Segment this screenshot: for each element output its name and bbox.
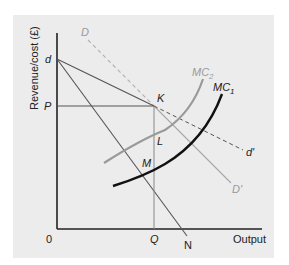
point-K-label: K — [157, 92, 165, 104]
curve-D-prime-label: D' — [232, 183, 243, 195]
kinked-demand-diagram: Revenue/cost (£) Output 0 P d Q K L M D … — [0, 0, 289, 265]
demand-D-prime-line — [154, 106, 231, 183]
price-label: P — [44, 100, 52, 112]
point-M-label: M — [142, 157, 152, 169]
marginal-revenue-line — [57, 59, 187, 236]
mc2-label: MC2 — [192, 66, 214, 81]
kink-price-label: d — [45, 53, 52, 65]
x-axis-label: Output — [233, 233, 266, 245]
y-axis-label: Revenue/cost (£) — [28, 26, 40, 110]
curve-N-label: N — [184, 239, 192, 251]
origin-label: 0 — [46, 233, 52, 245]
point-L-label: L — [157, 135, 163, 147]
mc1-label: MC1 — [213, 81, 235, 96]
quantity-label: Q — [150, 233, 159, 245]
mc1-curve — [113, 94, 222, 186]
curve-D-label: D — [81, 26, 89, 38]
demand-D-dashed — [88, 40, 154, 106]
demand-d-line — [57, 59, 154, 106]
curve-d-prime-label: d' — [246, 146, 255, 158]
